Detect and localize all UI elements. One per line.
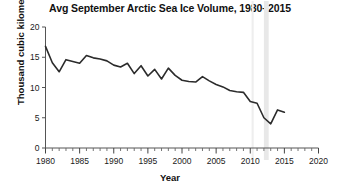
x-tick-label: 2005: [207, 156, 226, 166]
y-ticks-group: [42, 27, 46, 148]
x-tick-label: 2020: [309, 156, 328, 166]
shaded-band: [264, 1, 269, 160]
y-tick-label: 5: [35, 113, 40, 123]
shaded-band: [252, 1, 254, 160]
y-tick-label: 10: [30, 83, 40, 93]
y-tick-labels-group: 05101520: [30, 22, 40, 153]
data-series-group: [46, 46, 285, 123]
x-tick-label: 1980: [36, 156, 55, 166]
x-tick-labels-group: 198019851990199520002005201020152020: [36, 156, 328, 166]
y-tick-label: 0: [35, 143, 40, 153]
axis-lines-group: [46, 27, 319, 148]
chart-figure: Avg September Arctic Sea Ice Volume, 198…: [0, 0, 340, 190]
plot-area: 198019851990199520002005201020152020 051…: [0, 0, 340, 190]
shaded-bands-group: [252, 1, 269, 160]
x-tick-label: 1990: [104, 156, 123, 166]
x-tick-label: 2000: [173, 156, 192, 166]
x-tick-label: 2010: [241, 156, 260, 166]
y-tick-label: 20: [30, 22, 40, 32]
y-tick-label: 15: [30, 52, 40, 62]
x-tick-label: 1995: [138, 156, 157, 166]
data-line: [46, 46, 285, 123]
x-tick-label: 2015: [275, 156, 294, 166]
x-tick-label: 1985: [70, 156, 89, 166]
